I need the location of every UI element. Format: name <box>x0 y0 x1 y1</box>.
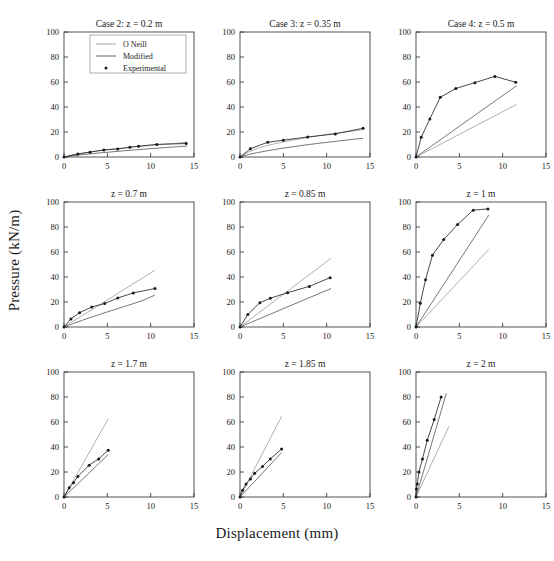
data-point-marker <box>431 254 434 257</box>
series-line-modified <box>416 393 446 497</box>
y-tick-label: 80 <box>227 392 236 402</box>
y-tick-label: 0 <box>231 152 235 162</box>
legend-swatch-marker <box>105 67 108 70</box>
x-axis-label-text: Displacement (mm) <box>216 525 339 541</box>
data-point-marker <box>78 311 81 314</box>
y-tick-label: 100 <box>222 367 235 377</box>
data-point-marker <box>89 151 92 154</box>
series-line-o-neill <box>416 250 489 328</box>
data-point-marker <box>280 447 283 450</box>
y-tick-label: 40 <box>227 102 236 112</box>
y-tick-label: 20 <box>227 467 236 477</box>
y-tick-label: 20 <box>403 297 412 307</box>
y-tick-label: 100 <box>46 27 59 37</box>
y-tick-label: 80 <box>227 52 236 62</box>
y-tick-label: 40 <box>403 102 412 112</box>
y-axis-label-text: Pressure (kN/m) <box>7 209 24 311</box>
x-tick-label: 5 <box>457 161 461 171</box>
data-point-marker <box>415 326 418 329</box>
y-tick-label: 60 <box>403 77 412 87</box>
y-tick-label: 0 <box>55 492 59 502</box>
y-tick-label: 80 <box>403 392 412 402</box>
x-tick-label: 5 <box>105 161 109 171</box>
panel-title: Case 3: z = 0.35 m <box>269 19 341 29</box>
data-point-marker <box>286 291 289 294</box>
y-tick-label: 0 <box>231 492 235 502</box>
y-tick-label: 60 <box>51 417 60 427</box>
x-tick-label: 5 <box>457 331 461 341</box>
y-tick-label: 80 <box>51 392 60 402</box>
data-point-marker <box>88 464 91 467</box>
x-tick-label: 0 <box>414 501 418 511</box>
y-tick-label: 60 <box>51 77 60 87</box>
data-point-marker <box>245 482 248 485</box>
data-point-marker <box>424 278 427 281</box>
data-point-marker <box>456 223 459 226</box>
series-line-o-neill <box>64 419 108 497</box>
x-tick-label: 0 <box>62 331 66 341</box>
data-point-marker <box>472 209 475 212</box>
figure-root: Pressure (kN/m) 020406080100051015Case 2… <box>0 0 554 561</box>
data-point-marker <box>442 238 445 241</box>
x-tick-label: 15 <box>542 331 551 341</box>
data-point-marker <box>266 141 269 144</box>
series-line-o-neill <box>416 426 449 497</box>
y-tick-label: 20 <box>403 127 412 137</box>
data-point-marker <box>116 297 119 300</box>
y-tick-label: 20 <box>403 467 412 477</box>
chart-panel: 020406080100051015Case 2: z = 0.2 mO Nei… <box>26 14 202 184</box>
x-tick-label: 15 <box>366 161 375 171</box>
panel-title: z = 2 m <box>467 359 496 369</box>
x-tick-label: 10 <box>322 331 331 341</box>
legend-label: O Neill <box>123 40 148 49</box>
series-line-modified <box>416 215 489 327</box>
y-tick-label: 20 <box>51 297 60 307</box>
data-point-marker <box>63 326 66 329</box>
data-point-marker <box>137 145 140 148</box>
y-tick-label: 40 <box>227 272 236 282</box>
data-point-marker <box>261 465 264 468</box>
x-axis-label: Displacement (mm) <box>0 524 554 542</box>
y-tick-label: 60 <box>227 77 236 87</box>
data-point-marker <box>90 306 93 309</box>
y-tick-label: 100 <box>46 367 59 377</box>
data-point-marker <box>103 302 106 305</box>
x-tick-label: 10 <box>322 501 331 511</box>
panel-title: z = 0.7 m <box>111 189 148 199</box>
data-point-marker <box>308 285 311 288</box>
data-point-marker <box>63 496 66 499</box>
x-tick-label: 0 <box>414 161 418 171</box>
panel-title: Case 2: z = 0.2 m <box>96 19 163 29</box>
data-point-marker <box>253 472 256 475</box>
y-tick-label: 100 <box>46 197 59 207</box>
data-point-marker <box>416 482 419 485</box>
x-tick-label: 5 <box>105 501 109 511</box>
data-point-marker <box>249 147 252 150</box>
x-tick-label: 10 <box>498 501 507 511</box>
x-tick-label: 15 <box>366 501 375 511</box>
y-tick-label: 0 <box>55 322 59 332</box>
chart-panel: 020406080100051015z = 1 m <box>378 184 554 354</box>
series-line-experimental <box>416 209 488 327</box>
data-point-marker <box>415 496 418 499</box>
series-line-experimental <box>240 278 330 327</box>
y-tick-label: 60 <box>403 417 412 427</box>
series-line-o-neill <box>64 270 155 327</box>
data-point-marker <box>128 146 131 149</box>
x-tick-label: 0 <box>62 501 66 511</box>
data-point-marker <box>439 96 442 99</box>
x-tick-label: 0 <box>238 161 242 171</box>
data-point-marker <box>440 396 443 399</box>
series-line-experimental <box>416 76 516 157</box>
y-tick-label: 40 <box>51 102 60 112</box>
data-point-marker <box>76 153 79 156</box>
x-tick-label: 15 <box>366 331 375 341</box>
x-tick-label: 0 <box>62 161 66 171</box>
data-point-marker <box>97 457 100 460</box>
x-tick-label: 0 <box>238 331 242 341</box>
data-point-marker <box>420 136 423 139</box>
y-tick-label: 0 <box>407 492 411 502</box>
panel-grid: 020406080100051015Case 2: z = 0.2 mO Nei… <box>26 14 554 522</box>
y-tick-label: 100 <box>398 367 411 377</box>
data-point-marker <box>107 449 110 452</box>
